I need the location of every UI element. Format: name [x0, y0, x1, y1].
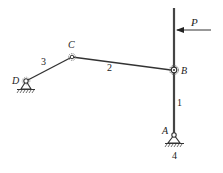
link-label-1: 1 — [177, 97, 182, 108]
mechanism-diagram: P B C D A 3 2 1 4 — [0, 0, 223, 173]
link-label-4: 4 — [172, 150, 177, 161]
joint-label-c: C — [68, 39, 75, 50]
link-3 — [26, 57, 72, 81]
link-label-3: 3 — [41, 56, 46, 67]
link-label-2: 2 — [107, 62, 112, 73]
link-2 — [72, 57, 171, 70]
joint-b-icon — [170, 66, 179, 75]
fixed-pivot-d-icon — [17, 77, 35, 93]
joint-label-a: A — [161, 125, 169, 136]
joint-label-b: B — [181, 65, 187, 76]
force-label-p: P — [190, 16, 198, 28]
joint-label-d: D — [11, 75, 20, 86]
